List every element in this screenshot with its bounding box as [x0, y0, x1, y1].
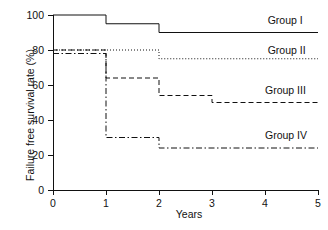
x-axis-label: Years: [0, 208, 328, 220]
y-axis-label: Failure free survival rate (%): [24, 35, 36, 195]
series-layer: [53, 15, 318, 148]
y-tick-label: 0: [38, 184, 44, 196]
legend-label-group-iv: Group IV: [265, 129, 307, 141]
legend-label-group-i: Group I: [268, 14, 303, 26]
chart-container: Failure free survival rate (%) Years 020…: [0, 0, 328, 230]
y-tick-label: 100: [26, 9, 44, 21]
survival-plot: 020406080100 012345 Group IGroup IIGroup…: [0, 0, 328, 230]
legend-label-group-iii: Group III: [265, 84, 306, 96]
x-axis-ticks: 012345: [50, 190, 321, 209]
legend-label-group-ii: Group II: [268, 44, 306, 56]
